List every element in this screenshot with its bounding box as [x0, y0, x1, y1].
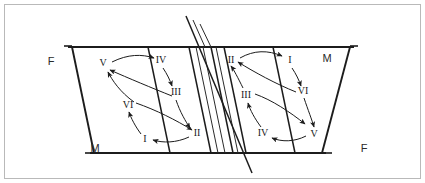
left-step-label-2: IV: [156, 54, 167, 65]
left-step-label-4: II: [194, 127, 201, 138]
right-step-label-4: V: [310, 128, 318, 139]
corner-label-top-left: F: [48, 55, 55, 67]
left-step-label-5: I: [143, 133, 146, 144]
left-step-label-3: III: [171, 86, 181, 97]
diagram-svg: V IV III II I VI II I VI V IV III F M M …: [0, 0, 425, 183]
right-step-label-2: I: [288, 54, 291, 65]
corner-label-bottom-left: M: [90, 142, 99, 154]
right-step-label-6: III: [241, 89, 251, 100]
corner-label-top-right: M: [322, 52, 331, 64]
left-step-label-6: VI: [123, 99, 134, 110]
corner-label-bottom-right: F: [361, 142, 368, 154]
left-step-label-1: V: [99, 57, 107, 68]
right-step-label-3: VI: [298, 85, 309, 96]
right-step-label-1: II: [228, 54, 235, 65]
figure-canvas: V IV III II I VI II I VI V IV III F M M …: [0, 0, 425, 183]
right-step-label-5: IV: [258, 127, 269, 138]
